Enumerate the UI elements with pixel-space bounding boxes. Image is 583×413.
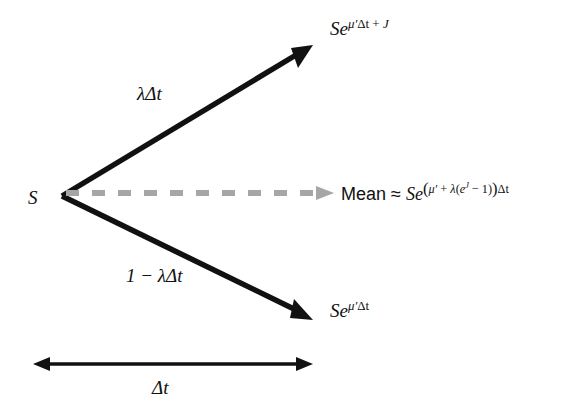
up-outcome-base: Se (330, 18, 348, 39)
up-exponent-plus: + (369, 16, 383, 31)
down-exponent-mu: μ′ (348, 298, 357, 313)
up-exponent-dt: Δt (357, 16, 369, 31)
diagram-vector-layer (0, 0, 583, 413)
approx-equals-icon: ≈ (391, 184, 401, 204)
up-branch-probability-label: λΔt (137, 84, 162, 103)
mean-dashed-arrow (66, 186, 334, 200)
mean-exp-plus: + (437, 182, 450, 196)
timespan-label: Δt (152, 378, 168, 397)
up-branch-arrow (62, 45, 313, 196)
mean-exp-mu: μ′ (428, 182, 437, 196)
down-outcome-base: Se (330, 300, 348, 321)
timespan-arrow (33, 357, 313, 371)
origin-label-s: S (28, 188, 38, 207)
diagram-canvas: S Seμ′Δt + J Seμ′Δt λΔt 1 − λΔt Mean ≈ S… (0, 0, 583, 413)
mean-expression-label: Mean ≈ Se(μ′ + λ(eJ − 1))Δt (341, 181, 509, 203)
mean-exp-minus-one: − 1 (469, 182, 488, 196)
up-exponent-jump: J (383, 16, 389, 31)
down-branch-arrow (62, 196, 313, 320)
up-exponent-mu: μ′ (348, 16, 357, 31)
up-outcome-label: Seμ′Δt + J (330, 18, 389, 38)
mean-exp-dt: Δt (498, 182, 509, 196)
up-outcome-exponent: μ′Δt + J (348, 16, 389, 31)
down-outcome-exponent: μ′Δt (348, 298, 369, 313)
mean-word: Mean (341, 184, 386, 204)
down-branch-probability-label: 1 − λΔt (126, 266, 182, 285)
down-outcome-label: Seμ′Δt (330, 300, 369, 320)
mean-exponent: (μ′ + λ(eJ − 1))Δt (423, 182, 509, 196)
down-exponent-dt: Δt (357, 298, 369, 313)
mean-base: Se (406, 184, 423, 204)
